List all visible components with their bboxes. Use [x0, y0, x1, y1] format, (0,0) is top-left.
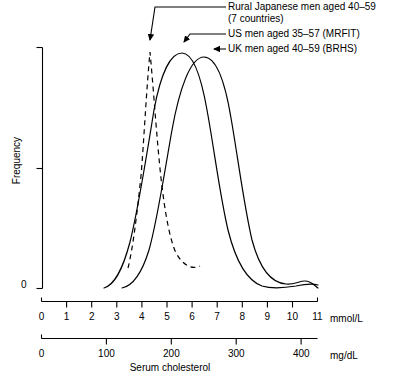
- cholesterol-distribution-figure: Rural Japanese men aged 40–59(7 countrie…: [0, 0, 407, 379]
- annotation-label-uk-men: UK men aged 40–59 (BRHS): [228, 43, 357, 55]
- y-axis-title: Frequency: [11, 121, 22, 201]
- y-axis: [37, 48, 43, 289]
- x-tick-label-mgdl-200: 200: [151, 348, 191, 359]
- annotation-rural-japanese-line2: (7 countries): [228, 13, 284, 24]
- annotation-rural-japanese-line1: Rural Japanese men aged 40–59: [228, 1, 376, 12]
- series-curve-uk-men: [122, 57, 318, 288]
- x-tick-label-mgdl-400: 400: [281, 348, 321, 359]
- x-axis-title: Serum cholesterol: [0, 362, 340, 373]
- x-tick-label-mmol-11: 11: [303, 311, 333, 322]
- annotation-label-rural-japanese: Rural Japanese men aged 40–59(7 countrie…: [228, 1, 376, 24]
- x-tick-label-mgdl-0: 0: [22, 348, 62, 359]
- x-axis-mgdl-unit-label: mg/dL: [330, 350, 358, 361]
- annotation-leaders: [150, 7, 226, 49]
- x-axis-mmol-unit-label: mmol/L: [330, 313, 363, 324]
- series-curve-rural-japanese: [128, 52, 200, 268]
- series-curve-us-men: [104, 53, 318, 288]
- y-axis-zero-label: 0: [21, 279, 27, 290]
- annotation-label-us-men: US men aged 35–57 (MRFIT): [228, 28, 360, 40]
- x-tick-label-mgdl-300: 300: [216, 348, 256, 359]
- x-tick-label-mgdl-100: 100: [86, 348, 126, 359]
- x-axis-mmol: [42, 298, 318, 308]
- leader-line-rural-japanese: [150, 7, 226, 40]
- leader-line-us-men: [184, 34, 226, 42]
- x-axis-mgdl: [42, 335, 318, 345]
